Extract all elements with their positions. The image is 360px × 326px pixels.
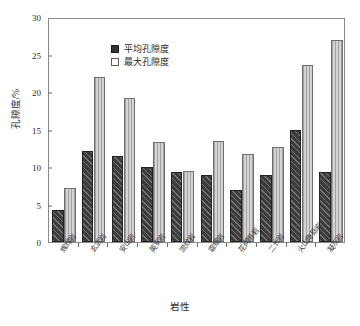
bar-maximum-porosity (213, 141, 225, 242)
x-tick-mark (167, 243, 168, 247)
bar-average-porosity (141, 167, 153, 242)
bar-average-porosity (52, 210, 64, 242)
plot-area: 平均孔隙度 最大孔隙度 (48, 18, 345, 243)
bar-average-porosity (82, 151, 94, 242)
bar-average-porosity (112, 156, 124, 242)
y-tick-label: 0 (37, 239, 42, 248)
bar-maximum-porosity (124, 98, 136, 242)
bar-average-porosity (201, 175, 213, 242)
x-tick-mark (137, 243, 138, 247)
x-tick-mark (256, 243, 257, 247)
y-tick-label: 10 (32, 164, 41, 173)
bar-maximum-porosity (183, 171, 195, 242)
porosity-bar-chart: 051015202530 孔隙度/% 平均孔隙度 最大孔隙度 辉绿岩玄武岩安山岩… (0, 0, 360, 326)
bar-average-porosity (319, 172, 331, 243)
x-tick-mark (78, 243, 79, 247)
y-tick-mark (48, 130, 52, 131)
bar-average-porosity (230, 190, 242, 243)
legend-swatch-average-icon (111, 45, 119, 53)
legend: 平均孔隙度 最大孔隙度 (111, 44, 169, 67)
bar-average-porosity (260, 175, 272, 243)
legend-item-average: 平均孔隙度 (111, 44, 169, 54)
y-tick-mark (48, 205, 52, 206)
bar-average-porosity (171, 172, 183, 242)
bar-maximum-porosity (94, 77, 106, 242)
y-tick-label: 5 (37, 201, 42, 210)
y-tick-label: 30 (32, 14, 41, 23)
y-tick-mark (48, 55, 52, 56)
legend-item-maximum: 最大孔隙度 (111, 57, 169, 67)
x-tick-mark (315, 243, 316, 247)
bar-maximum-porosity (272, 147, 284, 242)
x-tick-mark (226, 243, 227, 247)
y-tick-mark (48, 93, 52, 94)
y-tick-label: 25 (32, 51, 41, 60)
bar-average-porosity (290, 130, 302, 242)
x-axis-title: 岩性 (0, 302, 360, 313)
bar-maximum-porosity (302, 65, 314, 242)
y-axis-title: 孔隙度/% (11, 69, 21, 149)
y-tick-mark (48, 168, 52, 169)
bar-maximum-porosity (153, 142, 165, 243)
x-tick-mark (286, 243, 287, 247)
bar-maximum-porosity (331, 40, 343, 243)
y-tick-label: 20 (32, 89, 41, 98)
x-tick-mark (107, 243, 108, 247)
y-axis: 051015202530 (0, 0, 48, 326)
legend-label-maximum: 最大孔隙度 (124, 57, 169, 67)
legend-label-average: 平均孔隙度 (124, 44, 169, 54)
y-tick-label: 15 (32, 126, 41, 135)
legend-swatch-maximum-icon (111, 58, 119, 66)
x-tick-mark (197, 243, 198, 247)
